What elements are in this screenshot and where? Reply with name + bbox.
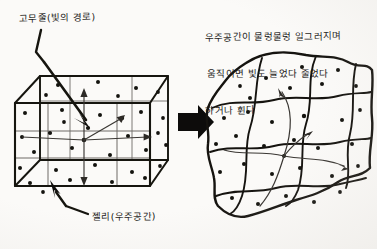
cube-back-grid	[40, 76, 168, 160]
caption-line-3: 하거나 휜다	[205, 103, 342, 117]
caption-warped-space: 우주공간이 물렁물렁 일그러지며 움직이면 빛도 늘었다 줄었다 하거나 휜다	[204, 6, 342, 141]
rubberband-leader-arrow	[36, 30, 90, 128]
diagram-canvas: 고무줄(빛의 경로) 젤리(우주공간) 우주공간이 물렁물렁 일그러지며 움직이…	[0, 0, 377, 249]
label-rubber-band: 고무줄(빛의 경로)	[19, 11, 96, 25]
caption-line-2: 움직이면 빛도 늘었다 줄었다	[207, 68, 342, 81]
caption-line-1: 우주공간이 물렁물렁 일그러지며	[205, 31, 342, 45]
cube-back-face	[40, 76, 168, 160]
label-jelly-space: 젤리(우주공간)	[92, 211, 156, 224]
